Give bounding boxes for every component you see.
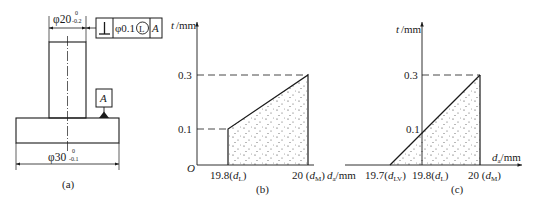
top-dim-upper-dev: 0 <box>75 10 78 16</box>
y-tick-0.1-b: 0.1 <box>178 123 192 135</box>
x-tick-19.8-b: 19.8(dL) <box>210 169 247 183</box>
x-axis-label-b: da/mm <box>327 169 356 183</box>
y-tick-0.3-b: 0.3 <box>178 69 192 81</box>
tolerance-zone-b <box>228 75 308 165</box>
origin-label: O <box>187 162 195 174</box>
x-tick-19.7-c: 19.7(dLV) <box>365 169 406 183</box>
x-tick-20-c: 20 (dM) <box>468 169 501 183</box>
fcf-datum: A <box>151 22 159 34</box>
caption-c: (c) <box>451 183 464 196</box>
bottom-dim-prefix: φ30 <box>48 151 66 164</box>
y-axis-label-var-b: t <box>171 19 175 31</box>
caption-b: (b) <box>256 183 269 196</box>
bottom-dim-upper-dev: 0 <box>72 148 75 154</box>
x-tick-20-b: 20 (dM) <box>292 169 325 183</box>
top-dim-lower-dev: -0.2 <box>72 18 82 24</box>
fcf-modifier: L <box>139 24 145 34</box>
y-axis-label-unit-b: /mm <box>176 19 197 31</box>
fcf-tolerance: φ0.1 <box>115 22 135 34</box>
panel-c-chart: t /mm 0.3 0.1 da/mm 19.7(dLV) 19.8(dL) 2… <box>345 22 522 196</box>
y-axis-label-var-c: t <box>396 23 400 35</box>
caption-a: (a) <box>62 178 75 191</box>
x-axis-label-c: da/mm <box>492 151 521 165</box>
bottom-dim-lower-dev: -0.1 <box>69 156 79 162</box>
feature-control-frame: φ0.1 L A <box>96 18 162 38</box>
top-dim-prefix: φ20 <box>53 13 71 26</box>
y-axis-label-unit-c: /mm <box>401 23 422 35</box>
y-tick-0.1-c: 0.1 <box>406 123 420 135</box>
datum-triangle-icon <box>99 112 109 119</box>
datum-label: A <box>99 92 107 104</box>
panel-b-chart: t /mm 0.3 0.1 O 19.8(dL) 20 (dM) da/mm (… <box>171 19 356 196</box>
y-tick-0.3-c: 0.3 <box>404 69 418 81</box>
panel-a-drawing: φ20 0 -0.2 φ0.1 L A A φ30 0 -0.1 <box>16 10 162 191</box>
x-tick-19.8-c: 19.8(dL) <box>412 169 449 183</box>
